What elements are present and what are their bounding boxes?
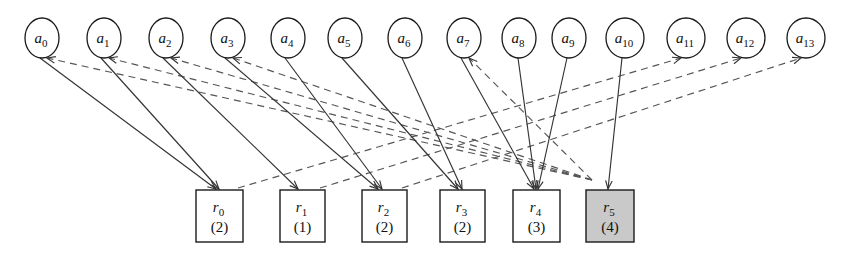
- top-node-a1[interactable]: a1: [87, 18, 121, 58]
- bottom-node-count: (2): [454, 219, 472, 236]
- top-node-a2[interactable]: a2: [149, 18, 183, 58]
- bottom-node-count: (1): [294, 219, 312, 236]
- diagram-canvas: r0(2)r1(1)r2(2)r3(2)r4(3)r5(4) a0a1a2a3a…: [0, 0, 850, 264]
- solid-edge-a10-to-r5: [608, 58, 622, 189]
- dashed-edge-layer: [47, 57, 801, 188]
- dashed-edge-r1-to-a12: [320, 58, 741, 188]
- solid-edge-a8-to-r4: [518, 58, 536, 189]
- top-node-a10[interactable]: a10: [606, 18, 644, 58]
- solid-edge-a6-to-r3: [402, 58, 462, 189]
- top-node-a9[interactable]: a9: [552, 18, 586, 58]
- bottom-node-r4[interactable]: r4(3): [513, 190, 560, 242]
- top-node-layer: a0a1a2a3a4a5a6a7a8a9a10a11a12a13: [25, 18, 825, 58]
- bottom-node-layer: r0(2)r1(1)r2(2)r3(2)r4(3)r5(4): [196, 190, 634, 242]
- solid-edge-a2-to-r1: [163, 58, 298, 189]
- edge-arrowhead: [109, 57, 118, 64]
- edge-arrowhead: [47, 57, 56, 64]
- top-node-a13[interactable]: a13: [787, 18, 825, 58]
- top-node-a4[interactable]: a4: [271, 18, 305, 58]
- bottom-node-r1[interactable]: r1(1): [280, 190, 325, 242]
- bottom-node-count: (2): [211, 219, 229, 236]
- solid-edge-a7-to-r4: [461, 58, 534, 189]
- top-node-a6[interactable]: a6: [388, 18, 422, 58]
- top-node-a5[interactable]: a5: [328, 18, 362, 58]
- bottom-node-r0[interactable]: r0(2): [196, 190, 243, 242]
- dashed-edge-r5-to-a0: [47, 58, 592, 180]
- solid-edge-a9-to-r4: [538, 58, 567, 189]
- bottom-node-r3[interactable]: r3(2): [440, 190, 485, 242]
- bottom-node-count: (3): [528, 219, 546, 236]
- dashed-edge-r5-to-a3: [233, 58, 592, 180]
- edge-arrowhead: [171, 57, 180, 63]
- solid-edge-a5-to-r3: [342, 58, 458, 189]
- solid-edge-a1-to-r0: [101, 58, 219, 189]
- bottom-node-r2[interactable]: r2(2): [362, 190, 407, 242]
- top-node-a12[interactable]: a12: [727, 18, 765, 58]
- solid-edge-layer: [40, 58, 622, 189]
- edge-arrowhead: [233, 58, 242, 64]
- top-node-a8[interactable]: a8: [502, 18, 536, 58]
- dashed-edge-r5-to-a2: [171, 58, 592, 180]
- solid-edge-a0-to-r0: [40, 58, 216, 189]
- top-node-a7[interactable]: a7: [447, 18, 481, 58]
- top-node-a0[interactable]: a0: [25, 18, 59, 58]
- top-node-a3[interactable]: a3: [211, 18, 245, 58]
- bottom-node-r5[interactable]: r5(4): [586, 190, 634, 242]
- edge-arrowhead: [672, 57, 681, 63]
- bipartite-graph-svg: r0(2)r1(1)r2(2)r3(2)r4(3)r5(4) a0a1a2a3a…: [0, 0, 850, 264]
- top-node-a11[interactable]: a11: [667, 18, 705, 58]
- bottom-node-count: (2): [376, 219, 394, 236]
- bottom-node-count: (4): [601, 219, 619, 236]
- dashed-edge-r2-to-a13: [402, 58, 801, 188]
